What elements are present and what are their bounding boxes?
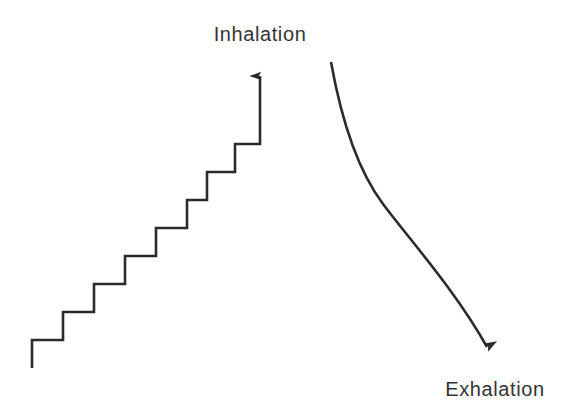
- breath-diagram: Inhalation Exhalation: [0, 0, 561, 418]
- inhalation-label: Inhalation: [214, 23, 307, 46]
- exhalation-label: Exhalation: [445, 378, 544, 401]
- exhalation-curve-group: [331, 62, 487, 347]
- exhalation-curve-path: [331, 62, 487, 347]
- breath-diagram-svg: [0, 0, 561, 418]
- inhalation-staircase-path: [32, 76, 260, 368]
- inhalation-staircase-group: [32, 76, 260, 368]
